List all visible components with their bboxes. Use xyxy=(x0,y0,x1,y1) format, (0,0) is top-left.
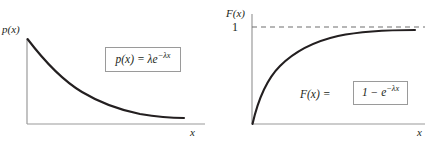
cdf-x-axis-label: x xyxy=(417,127,422,138)
cdf-y-axis-label: F(x) xyxy=(226,8,245,19)
pdf-panel: p(x) x p(x) = λe−λx xyxy=(0,0,218,150)
cdf-formula-minus: − xyxy=(371,86,379,98)
pdf-y-axis-label: p(x) xyxy=(2,24,20,35)
pdf-x-axis-label: x xyxy=(190,127,195,138)
pdf-formula-equals: = xyxy=(137,53,145,65)
pdf-formula-lhs: p(x) xyxy=(116,53,135,65)
pdf-plot-area xyxy=(0,0,218,150)
pdf-formula-exponent: −λx xyxy=(158,51,171,60)
exponential-distribution-figure: p(x) x p(x) = λe−λx F(x) 1 x F(x) = xyxy=(0,0,437,150)
cdf-formula-lhs: F(x) xyxy=(300,88,320,100)
pdf-formula-text: p(x) = λe−λx xyxy=(116,54,171,66)
cdf-plot-area xyxy=(218,0,437,150)
cdf-formula-exponent: −λx xyxy=(386,84,399,93)
cdf-formula-one: 1 xyxy=(362,86,368,98)
cdf-y-tick-label-1: 1 xyxy=(232,21,238,33)
cdf-panel: F(x) 1 x F(x) = 1 − e−λx xyxy=(218,0,437,150)
cdf-formula-prefix: F(x) = xyxy=(300,89,330,101)
cdf-formula-box: 1 − e−λx xyxy=(353,81,408,105)
cdf-curve xyxy=(253,30,416,124)
pdf-formula-box: p(x) = λe−λx xyxy=(105,47,181,72)
cdf-formula-text: 1 − e−λx xyxy=(362,87,399,99)
cdf-formula-equals: = xyxy=(323,88,331,100)
